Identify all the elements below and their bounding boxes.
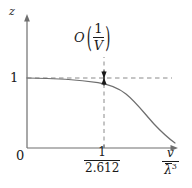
lambda-symbol: λ — [164, 163, 172, 177]
fraction-numerator: 1 — [93, 22, 103, 36]
lambda-overbar — [165, 163, 172, 164]
lambda-exponent: 3 — [172, 162, 177, 171]
x-axis-denominator: λ 3 — [163, 163, 178, 177]
right-paren: ) — [105, 23, 110, 51]
big-o-symbol: O — [74, 31, 85, 44]
critical-value-fraction: 1 2.612 — [84, 146, 120, 174]
x-axis-numerator: v — [166, 147, 175, 160]
one-over-v-fraction: 1 V — [93, 22, 104, 52]
y-axis-label: z — [9, 6, 15, 17]
arrowhead-down — [101, 72, 106, 79]
y-tick-label-one: 1 — [10, 71, 18, 84]
lambda-symbol-wrap: λ — [164, 164, 172, 177]
arrowhead-up — [101, 78, 106, 85]
y-axis-arrowhead — [24, 14, 30, 22]
x-tick-label-critical-value: 1 2.612 — [84, 146, 120, 174]
x-tick-denominator: 2.612 — [84, 162, 120, 175]
v-over-lambda-cubed-fraction: v λ 3 — [162, 147, 179, 176]
fraction-denominator: V — [93, 39, 104, 53]
order-of-one-over-v-annotation: O ( 1 V ) — [74, 22, 110, 52]
x-tick-numerator: 1 — [97, 146, 107, 159]
x-axis-label: v λ 3 — [162, 147, 179, 176]
fugacity-curve — [27, 78, 175, 143]
bec-fugacity-figure: z 1 0 O ( 1 V ) 1 2.612 v λ — [0, 0, 192, 188]
origin-label: 0 — [16, 149, 24, 162]
left-paren: ( — [87, 23, 92, 51]
